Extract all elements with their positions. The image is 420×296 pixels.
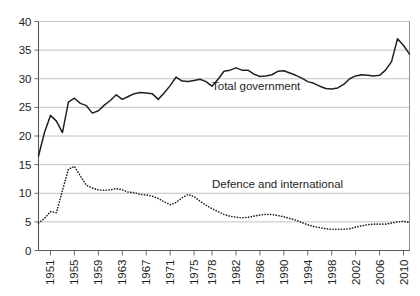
x-axis-label: 1955 — [68, 260, 80, 286]
series-annotation-1: Defence and international — [212, 178, 343, 190]
y-axis-label: 25 — [19, 101, 32, 113]
gridlines-group — [39, 22, 410, 222]
series-line-total-government — [39, 39, 410, 156]
y-axis-label: 10 — [19, 187, 32, 199]
line-chart: 0510152025303540 19511955195919631967197… — [0, 0, 420, 296]
y-axis-label: 30 — [19, 73, 32, 85]
y-axis-label: 20 — [19, 130, 32, 142]
x-axis-label: 1963 — [116, 260, 128, 286]
series-line-defence-and-international — [39, 166, 410, 229]
x-axis-labels-group: 1951195519591963196719711975197819821986… — [44, 259, 409, 285]
x-axis-label: 1951 — [44, 260, 56, 286]
x-axis-label: 1998 — [326, 260, 338, 286]
x-axis-label: 2002 — [350, 260, 362, 286]
x-axis-label: 1982 — [230, 260, 242, 286]
y-axis-label: 0 — [25, 245, 31, 257]
y-axis-label: 15 — [19, 159, 32, 171]
x-axis-label: 1986 — [254, 260, 266, 286]
series-paths-group — [39, 39, 410, 230]
y-tickmarks-group — [35, 22, 39, 251]
y-axis-label: 35 — [19, 44, 32, 56]
chart-container: 0510152025303540 19511955195919631967197… — [0, 0, 420, 296]
x-axis-label: 1978 — [206, 260, 218, 286]
x-axis-label: 1994 — [302, 259, 314, 285]
x-axis-label: 1971 — [164, 260, 176, 286]
x-axis-label: 1967 — [140, 260, 152, 286]
x-axis-label: 1959 — [92, 260, 104, 286]
x-axis-label: 2010 — [398, 260, 410, 286]
y-axis-label: 5 — [25, 216, 31, 228]
series-annotation-0: Total government — [212, 80, 301, 92]
x-axis-label: 2006 — [374, 260, 386, 286]
x-tickmarks-group — [50, 251, 403, 256]
series-annotations-group: Total governmentDefence and internationa… — [212, 80, 343, 189]
y-axis-label: 40 — [19, 16, 32, 28]
x-axis-label: 1990 — [278, 260, 290, 286]
y-axis-labels-group: 0510152025303540 — [19, 16, 32, 257]
x-axis-label: 1975 — [188, 260, 200, 286]
